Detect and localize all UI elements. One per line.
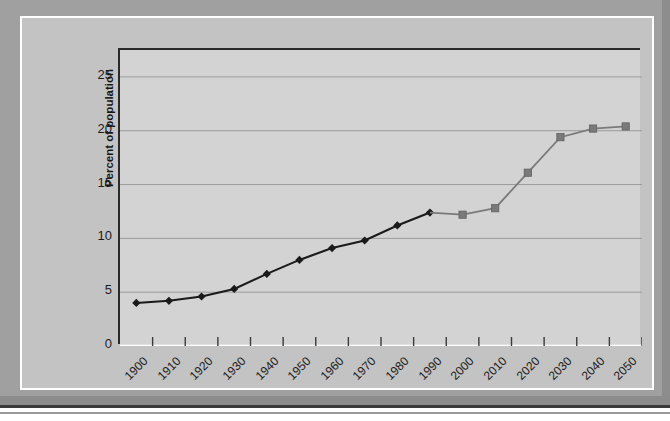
data-point-1940[interactable] <box>263 270 271 278</box>
data-point-2040[interactable] <box>589 125 596 132</box>
y-tick-label: 20 <box>84 121 112 136</box>
x-tick-label: 2030 <box>546 354 575 383</box>
data-point-2050[interactable] <box>622 123 629 130</box>
x-tick-label: 1950 <box>285 354 314 383</box>
data-point-1900[interactable] <box>132 299 140 307</box>
y-tick-label: 10 <box>84 228 112 243</box>
y-tick-label: 0 <box>84 336 112 351</box>
chart-panel: Percent of population age sixty-five and… <box>22 18 652 388</box>
x-tick-label: 2050 <box>611 354 640 383</box>
data-point-2020[interactable] <box>524 169 531 176</box>
x-tick-label: 1940 <box>252 354 281 383</box>
data-point-1950[interactable] <box>295 256 303 264</box>
data-point-2000[interactable] <box>459 211 466 218</box>
y-tick-label: 15 <box>84 175 112 190</box>
x-tick-label: 1930 <box>220 354 249 383</box>
x-tick-label: 1910 <box>154 354 183 383</box>
data-point-2010[interactable] <box>492 205 499 212</box>
plot-area <box>118 48 640 344</box>
x-tick-label: 1990 <box>415 354 444 383</box>
figure-bottom-rule <box>0 412 670 414</box>
figure-frame: Percent of population age sixty-five and… <box>0 0 670 405</box>
plot-svg <box>120 50 642 346</box>
data-point-1910[interactable] <box>165 297 173 305</box>
x-tick-label: 2000 <box>448 354 477 383</box>
frame-shadow-right <box>662 0 670 405</box>
x-tick-label: 1960 <box>318 354 347 383</box>
y-axis-tick-labels: 0510152025 <box>72 18 112 388</box>
data-point-1960[interactable] <box>328 244 336 252</box>
y-tick-label: 25 <box>84 67 112 82</box>
data-point-2030[interactable] <box>557 134 564 141</box>
y-tick-label: 5 <box>84 282 112 297</box>
figure-bottom-shadow <box>0 405 670 408</box>
data-point-1980[interactable] <box>393 221 401 229</box>
x-tick-label: 2010 <box>481 354 510 383</box>
series-line-actual <box>136 213 430 303</box>
x-tick-label: 1920 <box>187 354 216 383</box>
x-tick-label: 1970 <box>350 354 379 383</box>
x-tick-label: 1980 <box>383 354 412 383</box>
data-point-1970[interactable] <box>361 236 369 244</box>
x-axis-tick-labels: 1900191019201930194019501960197019801990… <box>118 346 648 406</box>
x-tick-label: 2040 <box>579 354 608 383</box>
x-tick-label: 2020 <box>513 354 542 383</box>
x-tick-label: 1900 <box>122 354 151 383</box>
data-point-1920[interactable] <box>197 292 205 300</box>
